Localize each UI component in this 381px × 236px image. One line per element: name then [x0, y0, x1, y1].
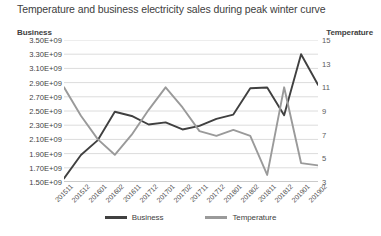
left-axis-tick: 2.70E+09: [16, 92, 62, 101]
left-axis-tick: 3.30E+09: [16, 50, 62, 59]
chart-legend: BusinessTemperature: [0, 213, 381, 222]
series-line-business: [64, 54, 318, 178]
legend-label: Temperature: [232, 213, 276, 222]
right-axis-tick: 15: [322, 36, 348, 45]
legend-item[interactable]: Business: [105, 213, 164, 222]
legend-swatch-icon: [105, 216, 127, 218]
legend-item[interactable]: Temperature: [205, 213, 276, 222]
right-axis-tick: 13: [322, 59, 348, 68]
x-axis-tick: 201901: [290, 183, 311, 204]
right-axis-tick-labels: 3579111315: [322, 40, 352, 182]
legend-swatch-icon: [205, 216, 227, 218]
left-axis-tick: 1.50E+09: [16, 178, 62, 187]
x-axis-tick: 201902: [307, 183, 328, 204]
left-axis-tick: 2.10E+09: [16, 135, 62, 144]
left-axis-tick: 3.10E+09: [16, 64, 62, 73]
series-line-temperature: [64, 87, 318, 175]
right-axis-tick: 7: [322, 130, 348, 139]
series-lines: [64, 54, 318, 178]
x-axis-tick-labels: 2015112015122016012016022016112017122017…: [64, 183, 318, 213]
left-axis-tick-labels: 1.50E+091.70E+091.90E+092.10E+092.30E+09…: [12, 40, 62, 182]
x-axis-tick: 201801: [223, 183, 244, 204]
x-axis-tick: 201802: [240, 183, 261, 204]
left-axis-tick: 1.90E+09: [16, 149, 62, 158]
left-axis-tick: 1.70E+09: [16, 163, 62, 172]
chart-title: Temperature and business electricity sal…: [17, 3, 367, 16]
x-axis-tick: 201611: [121, 183, 141, 203]
right-axis-tick: 9: [322, 107, 348, 116]
right-axis-tick: 11: [322, 83, 348, 92]
plot-svg: [64, 40, 318, 182]
right-axis-tick: 5: [322, 154, 348, 163]
plot-area: [64, 40, 318, 182]
left-axis-tick: 2.30E+09: [16, 121, 62, 130]
x-axis-tick: 201602: [104, 183, 125, 204]
x-axis-tick: 201601: [87, 183, 108, 204]
legend-label: Business: [132, 213, 164, 222]
chart-container: Temperature and business electricity sal…: [0, 0, 381, 236]
left-axis-tick: 2.50E+09: [16, 107, 62, 116]
left-axis-tick: 3.50E+09: [16, 36, 62, 45]
left-axis-tick: 2.90E+09: [16, 78, 62, 87]
